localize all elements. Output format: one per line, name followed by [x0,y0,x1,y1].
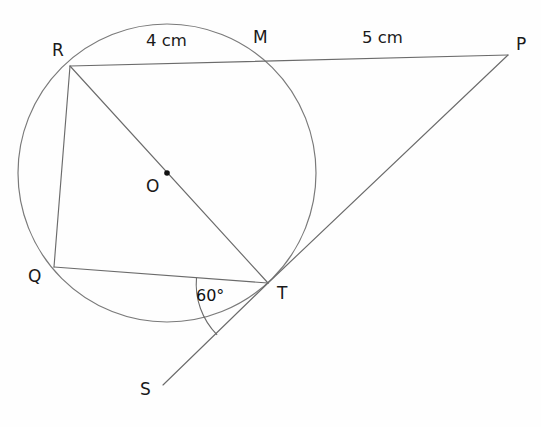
segment-RQ [54,66,70,267]
point-label-O: O [146,178,159,195]
measurement-label-MP: 5 cm [362,30,403,47]
point-label-T: T [277,285,287,302]
angle-label-60: 60° [196,288,224,304]
segment-QT [54,267,268,283]
point-label-P: P [516,36,526,53]
center-dot [164,170,170,176]
measurement-label-RM: 4 cm [146,33,187,50]
point-label-Q: Q [28,268,41,285]
point-label-S: S [140,381,151,398]
segment-TP [268,55,508,283]
geometry-diagram: R M P Q T S O 4 cm 5 cm 60° [0,0,541,427]
segment-RP [70,55,508,66]
point-label-R: R [52,42,64,59]
point-label-M: M [253,29,268,46]
geometry-canvas [0,0,541,427]
